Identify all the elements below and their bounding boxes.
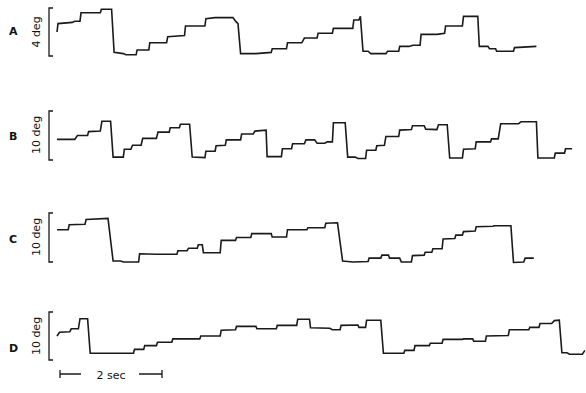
figure: A 4 deg B 10 deg C 10 deg D 10 deg 2 sec — [0, 0, 586, 393]
scale-label-d: 10 deg — [30, 317, 43, 355]
trace-b — [57, 121, 572, 158]
panel-c: C 10 deg — [9, 213, 534, 263]
trace-d — [57, 319, 585, 355]
time-scale-bar: 2 sec — [60, 369, 162, 382]
panel-label-c: C — [9, 233, 17, 246]
scale-bar-d — [49, 312, 53, 360]
scale-bar-a — [49, 8, 53, 56]
trace-c — [57, 218, 534, 262]
scale-label-b: 10 deg — [30, 116, 43, 154]
scale-bar-b — [49, 111, 53, 160]
scale-bar-c — [49, 213, 53, 262]
panel-a: A 4 deg — [9, 8, 536, 56]
scale-label-c: 10 deg — [30, 218, 43, 256]
panel-label-b: B — [9, 130, 17, 143]
trace-a — [57, 9, 536, 55]
panel-label-a: A — [9, 25, 18, 38]
scale-label-a: 4 deg — [30, 16, 43, 47]
time-bar-right — [139, 370, 162, 378]
time-scale-label: 2 sec — [96, 369, 125, 382]
panel-d: D 10 deg — [9, 312, 585, 360]
time-bar-left — [60, 370, 81, 378]
panel-label-d: D — [9, 342, 18, 355]
panel-b: B 10 deg — [9, 111, 572, 160]
